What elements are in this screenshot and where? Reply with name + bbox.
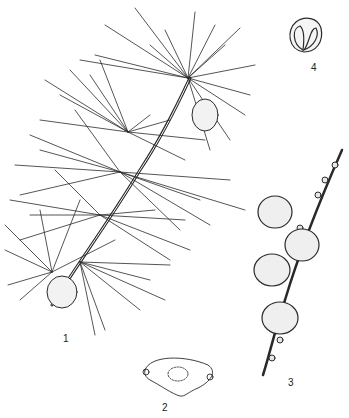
twig-cone [254, 254, 290, 286]
panel-label-1: 1 [63, 333, 69, 344]
panel-label-3: 3 [288, 377, 294, 388]
branch-panel-1 [5, 8, 255, 335]
illustration [0, 0, 349, 418]
cone-top [192, 99, 218, 131]
panel-label-2: 2 [162, 402, 168, 413]
leaf-scar-panel-2 [143, 358, 213, 396]
panel-label-4: 4 [311, 62, 317, 73]
twig-cone [285, 229, 319, 261]
twig-cone [258, 196, 292, 228]
cone-bottom [47, 276, 77, 308]
seed-scale-panel-4 [290, 18, 322, 52]
twig-panel-3 [254, 150, 342, 375]
twig-cone [262, 302, 298, 334]
